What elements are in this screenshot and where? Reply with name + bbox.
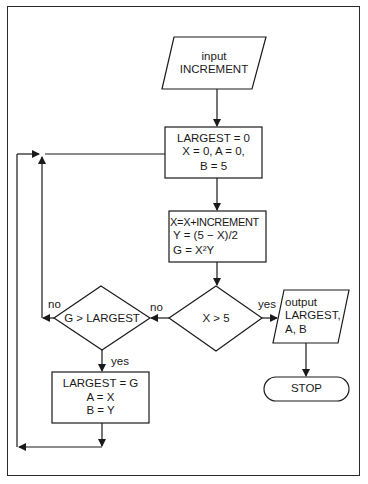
edge-label-x-no: no	[150, 301, 163, 314]
compute-line-1: X=X+INCREMENT	[170, 216, 259, 230]
decision-x-label: X > 5	[180, 312, 252, 325]
update-node: LARGEST = G A = X B = Y	[52, 374, 149, 421]
input-line-1: input	[168, 50, 260, 64]
stop-label: STOP	[264, 382, 349, 395]
init-line-1: LARGEST = 0	[165, 132, 262, 146]
edge-label-x-yes: yes	[258, 298, 276, 311]
output-node: output LARGEST, A, B	[285, 292, 347, 340]
init-line-3: B = 5	[165, 160, 262, 174]
compute-node: X=X+INCREMENT Y = (5 − X)/2 G = X²Y	[170, 213, 266, 260]
input-node: input INCREMENT	[168, 42, 260, 84]
output-line-3: A, B	[285, 323, 307, 337]
init-line-2: X = 0, A = 0,	[165, 145, 262, 159]
compute-line-3: G = X²Y	[170, 244, 214, 258]
edge-label-g-yes: yes	[111, 355, 129, 368]
update-line-2: A = X	[52, 391, 149, 405]
decision-g-label: G > LARGEST	[56, 312, 148, 325]
update-line-3: B = Y	[52, 404, 149, 418]
output-line-1: output	[285, 296, 317, 310]
output-line-2: LARGEST,	[285, 309, 341, 323]
init-node: LARGEST = 0 X = 0, A = 0, B = 5	[165, 129, 262, 176]
compute-line-2: Y = (5 − X)/2	[170, 229, 238, 243]
update-line-1: LARGEST = G	[52, 377, 149, 391]
edge-label-g-no: no	[48, 298, 61, 311]
input-line-2: INCREMENT	[168, 63, 260, 77]
